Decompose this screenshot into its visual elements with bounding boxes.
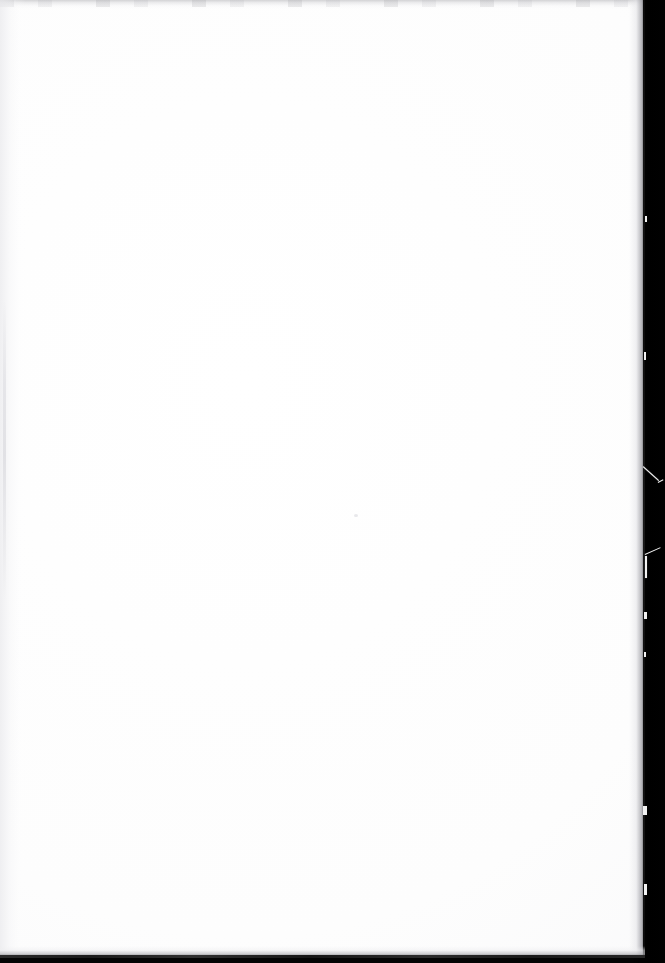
top-scan-band xyxy=(0,0,645,9)
left-gutter-shade xyxy=(0,0,26,958)
page-leaf xyxy=(0,0,645,958)
fore-edge-line xyxy=(643,0,645,958)
top-scan-streaks xyxy=(0,0,645,7)
fore-edge-shadow xyxy=(629,0,645,958)
page-illumination-gradient xyxy=(0,0,645,958)
paper-fleck xyxy=(354,514,358,517)
tail-edge-line xyxy=(0,955,645,958)
left-gutter-streak xyxy=(3,300,6,600)
scanned-page-viewport xyxy=(0,0,665,963)
tail-edge-shadow xyxy=(0,946,645,958)
